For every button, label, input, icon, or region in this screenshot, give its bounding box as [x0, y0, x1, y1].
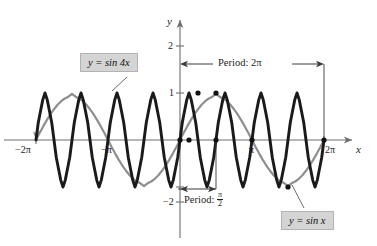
- callout-leader-sin4x: [112, 77, 127, 91]
- period-pi-over-2-text: Period:: [184, 194, 214, 205]
- fraction-denominator: 2: [217, 200, 223, 208]
- period-2pi-dimension: [180, 61, 324, 140]
- x-tick-pi: π: [249, 145, 254, 155]
- y-tick-2: 2: [168, 41, 173, 51]
- callout-label-sin4x: y = sin 4x: [80, 53, 138, 72]
- x-tick-2pi: 2π: [325, 145, 335, 155]
- y-tick-neg2: −2: [163, 197, 174, 207]
- callout-label-sinx: y = sin x: [281, 211, 334, 230]
- x-tick-neg-2pi: −2π: [15, 145, 31, 155]
- y-tick-1: 1: [169, 88, 174, 98]
- period-2pi-label: Period: 2π: [216, 58, 264, 69]
- x-tick-neg-pi: −π: [101, 145, 112, 155]
- fraction-pi-over-2: π 2: [217, 191, 223, 209]
- y-axis-label: y: [167, 16, 172, 27]
- callout-leader-sinx: [292, 185, 304, 208]
- x-axis-label: x: [356, 144, 361, 155]
- period-pi-over-2-label: Period: π 2: [184, 192, 223, 210]
